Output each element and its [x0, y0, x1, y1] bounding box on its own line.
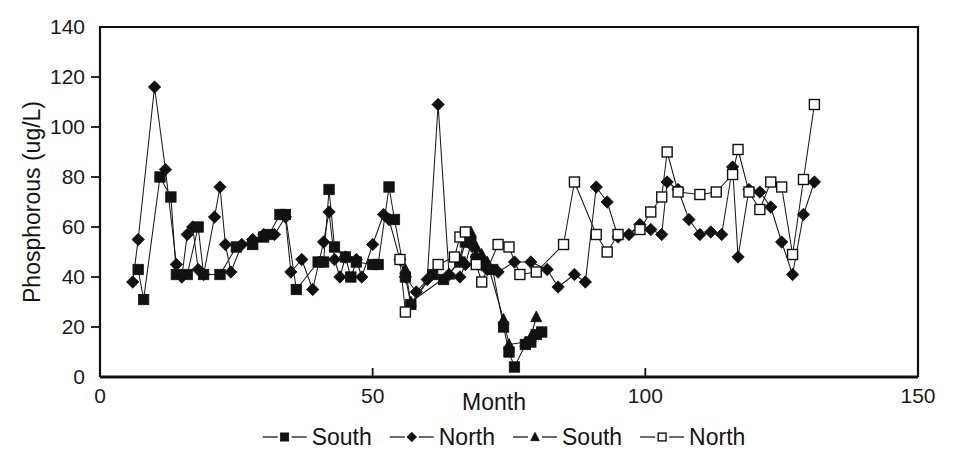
data-point-3-23 [711, 187, 721, 197]
data-point-3-25 [733, 145, 743, 155]
data-point-3-32 [809, 100, 819, 110]
data-point-3-15 [602, 247, 612, 257]
data-point-3-7 [477, 277, 487, 287]
data-point-1-22 [317, 236, 329, 248]
data-point-0-24 [373, 259, 383, 269]
data-point-3-24 [728, 170, 738, 180]
data-point-1-69 [775, 236, 787, 248]
phosphorous-month-line-chart: 020406080100120140050100150MonthPhosphor… [0, 0, 956, 468]
x-tick-label-50: 50 [361, 384, 384, 407]
data-point-2-9 [498, 314, 509, 325]
data-point-0-19 [329, 242, 339, 252]
data-point-1-24 [328, 253, 340, 265]
data-point-3-31 [798, 175, 808, 185]
data-point-1-63 [715, 228, 727, 240]
data-point-1-21 [306, 283, 318, 295]
legend-marker-filled-square [281, 433, 289, 441]
y-tick-label-60: 60 [62, 215, 85, 238]
data-point-3-29 [777, 182, 787, 192]
legend-marker-filled-triangle [531, 432, 540, 440]
data-point-0-3 [166, 192, 176, 202]
data-point-3-27 [755, 205, 765, 215]
legend-item-0-south[interactable]: South [263, 424, 372, 450]
data-point-1-25 [334, 271, 346, 283]
legend-item-2-south[interactable]: South [513, 424, 622, 450]
data-point-1-51 [590, 181, 602, 193]
data-series [127, 81, 821, 372]
legend-item-1-north[interactable]: North [390, 424, 495, 450]
data-point-3-30 [788, 250, 798, 260]
data-point-0-15 [291, 284, 301, 294]
data-point-1-1 [132, 233, 144, 245]
data-point-1-11 [214, 181, 226, 193]
y-tick-label-20: 20 [62, 315, 85, 338]
legend-marker-open-square [658, 433, 666, 441]
x-tick-label-100: 100 [628, 384, 663, 407]
data-point-1-10 [208, 211, 220, 223]
data-point-1-23 [323, 206, 335, 218]
data-point-3-0 [395, 255, 405, 265]
y-axis-title: Phosphorous (ug/L) [19, 101, 45, 303]
legend-item-3-north[interactable]: North [640, 424, 745, 450]
legend-label-2: South [562, 424, 622, 450]
data-point-1-62 [705, 226, 717, 238]
data-point-1-68 [765, 201, 777, 213]
data-point-1-49 [568, 268, 580, 280]
data-point-1-61 [694, 228, 706, 240]
data-point-3-19 [657, 192, 667, 202]
data-point-3-2 [433, 260, 443, 270]
data-point-0-39 [509, 362, 519, 372]
data-point-1-57 [655, 228, 667, 240]
y-tick-label-40: 40 [62, 265, 85, 288]
data-point-3-16 [613, 230, 623, 240]
data-point-3-18 [646, 207, 656, 217]
data-point-3-3 [449, 252, 459, 262]
x-axis-title: Month [462, 389, 526, 415]
legend-marker-filled-diamond [407, 432, 417, 442]
data-point-1-65 [732, 251, 744, 263]
data-point-1-67 [754, 186, 766, 198]
y-tick-label-100: 100 [50, 115, 85, 138]
x-tick-label-0: 0 [94, 384, 106, 407]
data-point-3-21 [673, 187, 683, 197]
chart-figure: 020406080100120140050100150MonthPhosphor… [0, 0, 956, 468]
x-tick-label-150: 150 [900, 384, 935, 407]
data-point-3-10 [515, 270, 525, 280]
data-point-3-13 [569, 177, 579, 187]
data-point-1-48 [552, 281, 564, 293]
data-point-1-13 [225, 266, 237, 278]
data-point-0-21 [346, 272, 356, 282]
y-tick-label-0: 0 [73, 365, 85, 388]
y-tick-label-120: 120 [50, 65, 85, 88]
data-point-3-6 [471, 260, 481, 270]
legend-label-3: North [689, 424, 745, 450]
data-point-1-56 [645, 223, 657, 235]
data-point-1-36 [432, 98, 444, 110]
data-point-1-0 [127, 276, 139, 288]
data-point-1-12 [219, 238, 231, 250]
data-point-0-8 [215, 269, 225, 279]
data-point-3-20 [662, 147, 672, 157]
data-point-1-70 [786, 268, 798, 280]
data-point-0-18 [324, 184, 334, 194]
data-point-3-11 [531, 267, 541, 277]
legend-label-0: South [312, 424, 372, 450]
data-point-3-1 [400, 307, 410, 317]
chart-legend: SouthNorthSouthNorth [263, 424, 746, 450]
data-point-1-72 [808, 176, 820, 188]
data-point-0-25 [384, 182, 394, 192]
data-point-3-22 [695, 190, 705, 200]
data-point-1-52 [601, 196, 613, 208]
data-point-1-50 [579, 276, 591, 288]
data-point-0-43 [537, 327, 547, 337]
data-point-0-1 [138, 294, 148, 304]
data-point-2-13 [531, 311, 542, 322]
y-tick-label-140: 140 [50, 15, 85, 38]
data-point-3-5 [460, 227, 470, 237]
data-point-1-29 [366, 238, 378, 250]
data-point-3-9 [504, 242, 514, 252]
data-point-3-12 [559, 240, 569, 250]
data-point-3-14 [591, 230, 601, 240]
data-point-1-38 [454, 271, 466, 283]
data-point-1-2 [148, 81, 160, 93]
